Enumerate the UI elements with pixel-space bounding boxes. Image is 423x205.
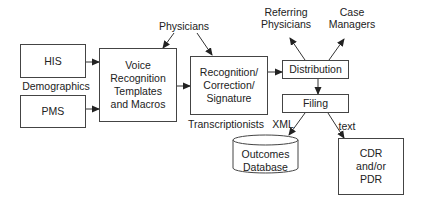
voice-recognition-box: Voice Recognition Templates and Macros	[99, 48, 177, 122]
referring-line-1: Referring	[258, 6, 314, 18]
recognition-line-2: Correction/	[203, 79, 254, 92]
pms-label: PMS	[42, 105, 65, 118]
case-managers-line-2: Managers	[326, 18, 378, 30]
cdr-line-1: CDR	[360, 147, 383, 160]
arrow-distribution-to-referring	[290, 38, 305, 60]
arrow-physicians-to-voice	[163, 33, 174, 48]
xml-label: XML	[271, 118, 295, 130]
filing-box: Filing	[282, 94, 349, 113]
recognition-line-3: Signature	[207, 92, 252, 105]
case-managers-label: Case Managers	[326, 6, 378, 30]
cdr-line-3: PDR	[360, 173, 382, 186]
physicians-label: Physicians	[156, 20, 212, 32]
voice-line-1: Voice	[125, 59, 151, 72]
referring-line-2: Physicians	[258, 18, 314, 30]
his-box: HIS	[20, 44, 86, 78]
distribution-label: Distribution	[289, 63, 342, 76]
recognition-line-1: Recognition/	[200, 66, 258, 79]
arrow-distribution-to-case-managers	[329, 39, 344, 60]
pms-box: PMS	[20, 95, 86, 128]
voice-line-3: Templates	[114, 85, 162, 98]
demographics-label: Demographics	[20, 80, 92, 92]
outcomes-database-label: Outcomes Database	[233, 148, 298, 174]
distribution-box: Distribution	[282, 60, 349, 79]
recognition-correction-signature-box: Recognition/ Correction/ Signature	[190, 56, 268, 115]
transcriptionists-label: Transcriptionists	[181, 118, 271, 130]
cdr-line-2: and/or	[356, 160, 386, 173]
text-label: text	[336, 120, 358, 132]
arrow-physicians-to-recognition	[197, 33, 212, 55]
voice-line-2: Recognition	[110, 72, 165, 85]
his-label: HIS	[44, 55, 62, 68]
cdr-pdr-box: CDR and/or PDR	[338, 138, 404, 195]
referring-physicians-label: Referring Physicians	[258, 6, 314, 30]
voice-line-4: and Macros	[111, 98, 166, 111]
filing-label: Filing	[303, 97, 328, 110]
case-managers-line-1: Case	[326, 6, 378, 18]
outcomes-line-2: Database	[233, 161, 298, 174]
outcomes-line-1: Outcomes	[233, 148, 298, 161]
